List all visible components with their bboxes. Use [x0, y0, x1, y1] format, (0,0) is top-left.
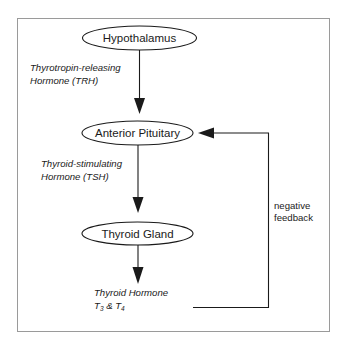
feedback-loop-arrow	[193, 128, 269, 308]
arrowhead-icon	[134, 98, 145, 114]
arrowhead-icon	[133, 267, 144, 284]
node-anterior-pituitary-label: Anterior Pituitary	[95, 127, 180, 139]
node-thyroid-gland: Thyroid Gland	[82, 222, 193, 245]
thyroid-axis-diagram: Hypothalamus Thyrotropin-releasing Hormo…	[0, 0, 344, 347]
arrow-tsh	[133, 145, 144, 213]
arrow-thyroid-hormone	[133, 245, 144, 284]
edge-label-tsh-line2: Hormone (TSH)	[41, 171, 109, 182]
feedback-label-line1: negative	[274, 200, 310, 211]
arrow-trh	[134, 50, 145, 114]
node-thyroid-gland-label: Thyroid Gland	[101, 228, 173, 240]
arrowhead-left-icon	[198, 128, 214, 139]
edge-label-tsh-line1: Thyroid-stimulating	[41, 158, 123, 169]
node-hypothalamus: Hypothalamus	[83, 26, 197, 50]
output-label-line1: Thyroid Hormone	[94, 287, 168, 298]
output-label-line2: T3 & T4	[94, 300, 125, 312]
node-hypothalamus-label: Hypothalamus	[103, 32, 177, 44]
edge-label-trh-line1: Thyrotropin-releasing	[30, 62, 121, 73]
node-anterior-pituitary: Anterior Pituitary	[82, 121, 193, 145]
arrowhead-icon	[133, 197, 144, 213]
feedback-label-line2: feedback	[274, 212, 313, 223]
edge-label-trh-line2: Hormone (TRH)	[30, 75, 98, 86]
